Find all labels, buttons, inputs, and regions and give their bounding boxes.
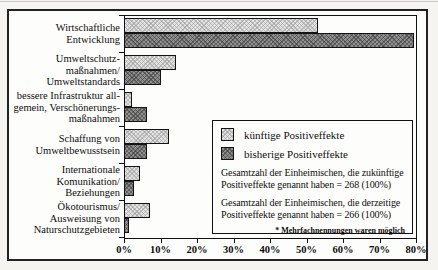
x-axis-tick — [380, 239, 381, 243]
bar-past-effects — [125, 144, 147, 159]
x-axis-tick-label: 20% — [179, 244, 215, 255]
bar-past-effects — [125, 70, 161, 85]
y-axis-tick — [119, 200, 124, 201]
category-label-line: Ausweisung von — [12, 213, 120, 225]
x-axis-tick-label: 70% — [362, 244, 398, 255]
x-axis-tick-label: 80% — [398, 244, 434, 255]
bar-future-effects — [125, 18, 318, 33]
x-axis-tick-label: 10% — [143, 244, 179, 255]
legend-box: künftige Positiveffekte bisherige Positi… — [212, 120, 413, 234]
y-axis-tick — [119, 89, 124, 90]
figure-box: WirtschaftlicheEntwicklungUmweltschutz-m… — [7, 9, 428, 261]
category-label-line: Umweltstandards — [12, 76, 120, 88]
category-label-line: Beziehungen — [12, 187, 120, 199]
legend-swatch-future — [221, 128, 234, 141]
y-axis-tick — [119, 237, 124, 238]
x-axis-tick-label: 40% — [252, 244, 288, 255]
y-axis-tick — [119, 15, 124, 16]
category-label: Umweltschutz-maßnahmen/Umweltstandards — [12, 53, 120, 88]
category-label: bessere Infrastruktur all-gemein, Versch… — [12, 90, 120, 125]
bar-future-effects — [125, 92, 132, 107]
category-label-line: Umweltbewusstsein — [12, 145, 120, 157]
x-axis-tick — [197, 239, 198, 243]
y-axis-tick — [119, 52, 124, 53]
legend-note-future: Gesamtzahl der Einheimischen, die zukünf… — [221, 167, 405, 190]
bar-future-effects — [125, 129, 169, 144]
bar-past-effects — [125, 33, 414, 48]
legend-label-future: künftige Positiveffekte — [244, 129, 344, 141]
category-label: Schaffung vonUmweltbewusstsein — [12, 133, 120, 156]
category-label-line: gemein, Verschönerungs- — [12, 102, 120, 114]
x-axis-tick — [234, 239, 235, 243]
category-label-line: Internationale — [12, 164, 120, 176]
x-axis-tick-label: 50% — [289, 244, 325, 255]
x-axis-tick-label: 30% — [216, 244, 252, 255]
x-axis-tick — [416, 239, 417, 243]
category-label-line: Ökotourismus/ — [12, 201, 120, 213]
category-label-line: bessere Infrastruktur all- — [12, 90, 120, 102]
bar-future-effects — [125, 166, 140, 181]
category-label: WirtschaftlicheEntwicklung — [12, 22, 120, 45]
category-label-line: Umweltschutz- — [12, 53, 120, 65]
x-axis-tick — [161, 239, 162, 243]
bar-past-effects — [125, 218, 129, 233]
category-label-line: maßnahmen/ — [12, 65, 120, 77]
legend-item-past: bisherige Positiveffekte — [221, 147, 405, 160]
y-axis-tick — [119, 126, 124, 127]
category-label-line: Wirtschaftliche — [12, 22, 120, 34]
x-axis-tick — [307, 239, 308, 243]
legend-note-past: Gesamtzahl der Einheimischen, die derzei… — [221, 197, 405, 220]
bar-past-effects — [125, 107, 147, 122]
category-label-line: Entwicklung — [12, 34, 120, 46]
y-axis-tick — [119, 163, 124, 164]
bar-past-effects — [125, 181, 134, 196]
x-axis-tick-label: 60% — [325, 244, 361, 255]
category-label: InternationaleKomunikation/Beziehungen — [12, 164, 120, 199]
x-axis-tick-label: 0% — [106, 244, 142, 255]
category-label: Ökotourismus/Ausweisung vonNaturschutzge… — [12, 201, 120, 236]
x-axis-tick — [270, 239, 271, 243]
category-label-line: Komunikation/ — [12, 176, 120, 188]
legend-item-future: künftige Positiveffekte — [221, 128, 405, 141]
legend-label-past: bisherige Positiveffekte — [244, 148, 348, 160]
legend-swatch-past — [221, 147, 234, 160]
figure-page: { "page": { "background": "#f5f4f1" }, "… — [0, 0, 438, 270]
bar-group — [125, 16, 416, 53]
x-axis-tick — [124, 239, 125, 243]
category-label-line: Schaffung von — [12, 133, 120, 145]
bar-future-effects — [125, 55, 176, 70]
category-label-line: Naturschutzgebieten — [12, 224, 120, 236]
category-label-line: maßnahmen — [12, 113, 120, 125]
legend-footnote: * Mehrfachnennungen waren möglich — [221, 226, 405, 235]
x-axis-tick — [343, 239, 344, 243]
bar-future-effects — [125, 203, 150, 218]
page-top-rule — [0, 1, 438, 2]
bar-group — [125, 53, 416, 90]
